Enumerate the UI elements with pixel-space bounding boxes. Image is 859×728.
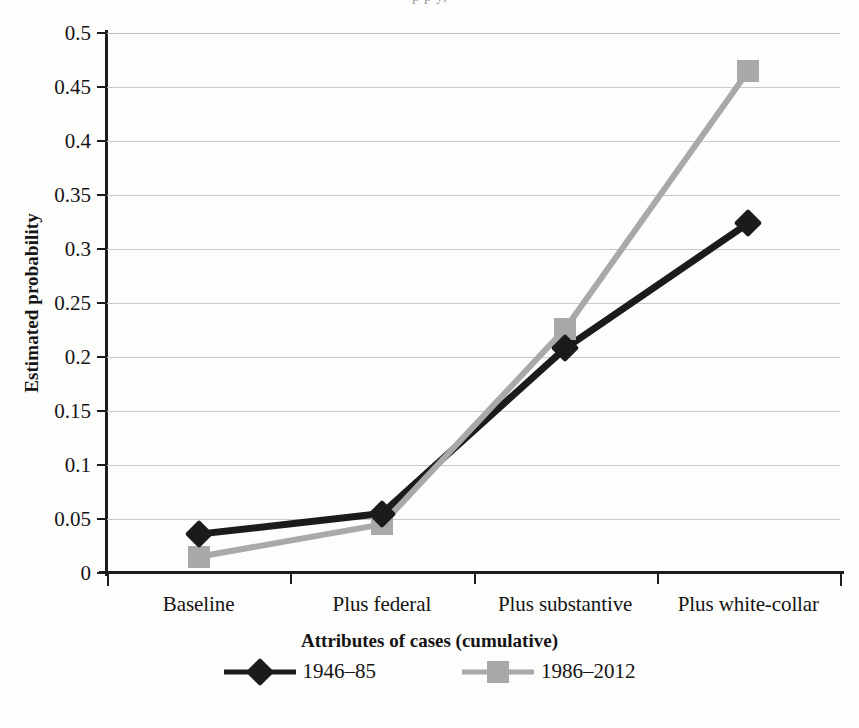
y-axis-tick [97, 464, 107, 466]
x-axis-category-label: Plus substantive [498, 592, 632, 617]
x-axis-tick [840, 573, 842, 586]
y-axis-tick-label: 0.35 [54, 185, 91, 206]
y-axis-tick [97, 86, 107, 88]
diamond-marker [245, 657, 273, 685]
y-axis-tick [97, 572, 107, 574]
y-axis-tick-label: 0.45 [54, 77, 91, 98]
y-axis-tick [97, 410, 107, 412]
y-axis-tick-label: 0.2 [65, 347, 91, 368]
x-axis-category-label: Baseline [163, 592, 235, 617]
data-point [748, 71, 770, 93]
data-point [748, 223, 768, 243]
y-axis-tick-label: 0 [81, 563, 92, 584]
legend-swatch [462, 662, 534, 682]
data-point [199, 557, 221, 579]
chart-figure: p p y, Estimated probability 00.050.10.1… [0, 0, 859, 728]
x-axis-tick [474, 573, 476, 584]
x-axis-category-label: Plus federal [333, 592, 432, 617]
square-marker [487, 661, 509, 683]
y-axis-tick-label: 0.25 [54, 293, 91, 314]
y-axis-title: Estimated probability [21, 23, 43, 583]
y-axis-tick-label: 0.15 [54, 401, 91, 422]
y-axis-tick [97, 302, 107, 304]
legend-label: 1946–85 [303, 661, 377, 682]
y-axis-tick-label: 0.5 [65, 23, 91, 44]
x-axis-title: Attributes of cases (cumulative) [0, 630, 859, 652]
y-axis-tick [97, 518, 107, 520]
x-axis-tick [657, 573, 659, 584]
legend-item[interactable]: 1986–2012 [462, 661, 636, 682]
legend-item[interactable]: 1946–85 [224, 661, 377, 682]
x-axis-tick [107, 573, 109, 586]
y-axis-tick [97, 248, 107, 250]
y-axis-tick-label: 0.05 [54, 509, 91, 530]
legend-label: 1986–2012 [541, 661, 636, 682]
x-axis-tick [290, 573, 292, 584]
series-line-dark [199, 223, 749, 534]
series-lines [107, 33, 840, 573]
y-axis-tick-label: 0.3 [65, 239, 91, 260]
cropped-title-remnant: p p y, [0, 0, 859, 14]
data-point [199, 534, 219, 554]
y-axis-tick [97, 140, 107, 142]
x-axis-category-label: Plus white-collar [678, 592, 819, 617]
plot-area: 00.050.10.150.20.250.30.350.40.450.5 [107, 33, 840, 573]
y-axis-tick-label: 0.4 [65, 131, 91, 152]
legend-swatch [224, 662, 296, 682]
y-axis-tick [97, 32, 107, 34]
y-axis-tick [97, 356, 107, 358]
data-point [382, 514, 402, 534]
data-point [565, 348, 585, 368]
square-marker [737, 60, 759, 82]
y-axis-tick [97, 194, 107, 196]
y-axis-tick-label: 0.1 [65, 455, 91, 476]
chart-legend: 1946–851986–2012 [0, 661, 859, 682]
series-line-gray [199, 71, 749, 557]
